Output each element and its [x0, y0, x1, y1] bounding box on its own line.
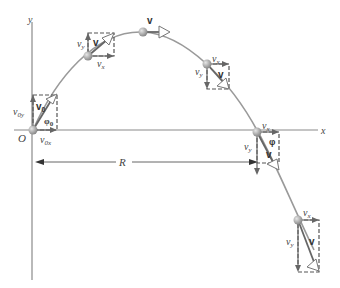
- projectile-diagram: y x O R v0 v0y v0x φ0 v vy vx: [0, 0, 340, 288]
- v-label: v: [93, 37, 99, 48]
- vy-label: vy: [286, 236, 294, 249]
- y-axis-label: y: [27, 14, 33, 25]
- ball: [29, 126, 38, 135]
- range-label: R: [118, 156, 126, 168]
- phi-label: φ: [269, 137, 276, 147]
- v-label: v: [309, 236, 315, 247]
- vy-label: vy: [244, 141, 252, 154]
- below-origin-point: vx vy v: [286, 207, 319, 272]
- landing-point: vx vy φ v: [244, 120, 279, 175]
- ball: [253, 128, 262, 137]
- rising-point: v vy vx: [77, 33, 114, 71]
- vx-label: vx: [97, 58, 105, 71]
- velocity-arrowhead: [267, 159, 279, 170]
- vx-label: vx: [303, 207, 311, 220]
- x-axis-label: x: [320, 125, 326, 136]
- range-arrow: R: [35, 156, 258, 168]
- ball: [203, 60, 212, 69]
- v-label: v: [147, 15, 153, 26]
- origin-label: O: [18, 132, 26, 144]
- vy-label: vy: [195, 66, 203, 79]
- ball: [84, 52, 93, 61]
- vy-label: vy: [77, 38, 85, 51]
- vx-label: vx: [262, 120, 270, 133]
- peak-point: v: [139, 15, 171, 38]
- ball: [294, 216, 303, 225]
- v0x-label: v0x: [40, 134, 52, 147]
- v-label: v: [218, 69, 224, 80]
- v0-label: v0: [36, 101, 46, 113]
- v-label: v: [266, 149, 272, 160]
- v0y-label: v0y: [13, 106, 25, 119]
- phi0-label: φ0: [44, 116, 54, 128]
- ball: [139, 28, 148, 37]
